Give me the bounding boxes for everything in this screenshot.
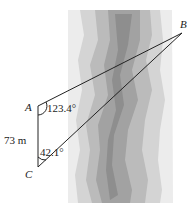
river-image	[68, 10, 173, 203]
point-label-A: A	[24, 101, 32, 113]
point-label-C: C	[25, 168, 33, 180]
angle-C-label: 42.1°	[40, 146, 64, 158]
side-length-label: 73 m	[4, 134, 27, 146]
figure: A B C 73 m 123.4° 42.1°	[0, 0, 192, 210]
point-label-B: B	[180, 18, 187, 30]
angle-A-label: 123.4°	[47, 102, 76, 114]
triangle-river-diagram: A B C 73 m 123.4° 42.1°	[0, 0, 192, 210]
